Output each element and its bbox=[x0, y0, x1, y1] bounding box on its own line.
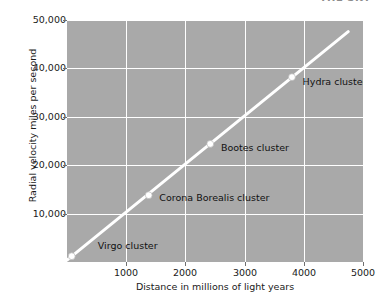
annotation-virgo-cluster: Virgo cluster bbox=[98, 241, 158, 251]
x-tick-mark-1000 bbox=[126, 262, 127, 266]
y-axis-title: Radial velocity miles per second bbox=[27, 31, 38, 221]
data-point-hydra-cluster[interactable] bbox=[289, 74, 296, 81]
x-tick-label-1000: 1000 bbox=[101, 268, 151, 278]
x-tick-mark-3000 bbox=[245, 262, 246, 266]
cut-off-header-text: THE SKY bbox=[320, 0, 371, 1]
x-tick-label-4000: 4000 bbox=[279, 268, 329, 278]
plot-area: Virgo cluster Corona Borealis cluster Bo… bbox=[67, 20, 363, 262]
data-point-corona-borealis-cluster[interactable] bbox=[145, 192, 152, 199]
x-tick-label-2000: 2000 bbox=[160, 268, 210, 278]
data-series-layer bbox=[67, 20, 363, 262]
data-point-virgo-cluster[interactable] bbox=[68, 253, 75, 260]
x-tick-mark-4000 bbox=[304, 262, 305, 266]
y-tick-label-50000: 50,000 bbox=[6, 15, 66, 25]
x-axis-title: Distance in millions of light years bbox=[67, 281, 363, 292]
data-point-bootes-cluster[interactable] bbox=[207, 141, 214, 148]
hubble-diagram-figure: THE SKY 50,000 40,000 30,000 20,000 10,0… bbox=[0, 0, 381, 299]
x-tick-label-5000: 5000 bbox=[338, 268, 381, 278]
annotation-hydra-cluster: Hydra cluster bbox=[303, 77, 363, 87]
annotation-bootes-cluster: Bootes cluster bbox=[221, 143, 289, 153]
annotation-corona-borealis-cluster: Corona Borealis cluster bbox=[159, 193, 269, 203]
x-tick-mark-5000 bbox=[363, 262, 364, 266]
x-tick-label-3000: 3000 bbox=[220, 268, 270, 278]
x-tick-mark-2000 bbox=[185, 262, 186, 266]
